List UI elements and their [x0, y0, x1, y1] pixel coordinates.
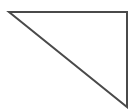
right-triangle-shape: [9, 12, 127, 107]
diagram-canvas: [0, 0, 134, 109]
